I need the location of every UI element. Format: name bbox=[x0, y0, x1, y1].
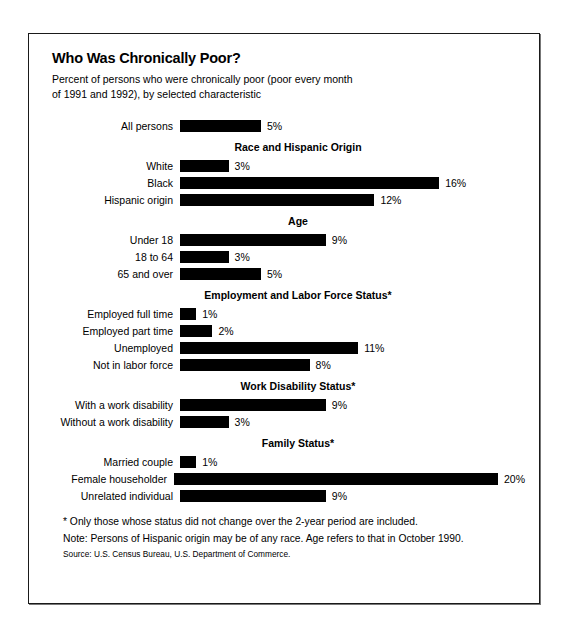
bar-track: 3% bbox=[180, 157, 525, 174]
chart-notes: * Only those whose status did not change… bbox=[63, 513, 525, 562]
bar-value-label: 3% bbox=[229, 251, 250, 263]
bar-label: 18 to 64 bbox=[43, 251, 180, 263]
bar-label: Black bbox=[43, 177, 180, 189]
bar-value-label: 3% bbox=[229, 416, 250, 428]
bar-track: 20% bbox=[174, 470, 525, 487]
bar-row: With a work disability9% bbox=[43, 396, 525, 413]
bar-row: Hispanic origin12% bbox=[43, 191, 525, 208]
bar-value-label: 9% bbox=[326, 399, 347, 411]
bar-track: 8% bbox=[180, 356, 525, 373]
bar-label: White bbox=[43, 160, 180, 172]
bar-row: White3% bbox=[43, 157, 525, 174]
bar bbox=[180, 308, 196, 320]
bar-value-label: 1% bbox=[196, 308, 217, 320]
chart-title: Who Was Chronically Poor? bbox=[52, 50, 525, 66]
bar-value-label: 20% bbox=[498, 473, 525, 485]
bar-value-label: 11% bbox=[358, 342, 384, 354]
bar bbox=[180, 194, 374, 206]
bar-label: Employed full time bbox=[43, 308, 180, 320]
bar bbox=[180, 416, 229, 428]
bar-track: 9% bbox=[180, 231, 525, 248]
bar-track: 5% bbox=[180, 265, 525, 282]
section-heading: Work Disability Status* bbox=[43, 379, 525, 393]
chart-subtitle-line-2: of 1991 and 1992), by selected character… bbox=[52, 87, 525, 102]
bar-track: 9% bbox=[180, 396, 525, 413]
bar-value-label: 2% bbox=[212, 325, 233, 337]
footnote-text: * Only those whose status did not change… bbox=[63, 513, 525, 530]
section-heading: Family Status* bbox=[43, 436, 525, 450]
bar-track: 12% bbox=[180, 191, 525, 208]
bar bbox=[180, 399, 326, 411]
chart-subtitle: Percent of persons who were chronically … bbox=[52, 72, 525, 102]
bar-row: All persons5% bbox=[43, 117, 525, 134]
bar-row: Employed part time2% bbox=[43, 322, 525, 339]
bar-label: Unrelated individual bbox=[43, 490, 180, 502]
bar bbox=[180, 160, 229, 172]
bar-track: 9% bbox=[180, 487, 525, 504]
bar-value-label: 16% bbox=[439, 177, 466, 189]
section-heading: Employment and Labor Force Status* bbox=[43, 288, 525, 302]
bar-label: Unemployed bbox=[43, 342, 180, 354]
bar-label: With a work disability bbox=[43, 399, 180, 411]
bar-row: 18 to 643% bbox=[43, 248, 525, 265]
note-text: Note: Persons of Hispanic origin may be … bbox=[63, 530, 525, 547]
bar-row: Unemployed11% bbox=[43, 339, 525, 356]
bar-value-label: 3% bbox=[229, 160, 250, 172]
bar-label: Married couple bbox=[43, 456, 180, 468]
spacer bbox=[43, 504, 525, 513]
bar-row: Unrelated individual9% bbox=[43, 487, 525, 504]
bar-track: 16% bbox=[180, 174, 525, 191]
bar-row: Without a work disability3% bbox=[43, 413, 525, 430]
bar-row: Female householder20% bbox=[43, 470, 525, 487]
bar bbox=[180, 359, 310, 371]
bar-track: 1% bbox=[180, 305, 525, 322]
bar-track: 11% bbox=[180, 339, 525, 356]
bar-row: 65 and over5% bbox=[43, 265, 525, 282]
bar-label: Under 18 bbox=[43, 234, 180, 246]
bar-label: Not in labor force bbox=[43, 359, 180, 371]
bar-label: All persons bbox=[43, 120, 180, 132]
bar-value-label: 9% bbox=[326, 234, 347, 246]
bar bbox=[180, 342, 358, 354]
bar-track: 3% bbox=[180, 413, 525, 430]
bar-row: Black16% bbox=[43, 174, 525, 191]
bar-chart: All persons5%Race and Hispanic OriginWhi… bbox=[43, 111, 525, 513]
bar bbox=[180, 177, 439, 189]
chart-frame: Who Was Chronically Poor? Percent of per… bbox=[28, 33, 540, 604]
section-heading: Race and Hispanic Origin bbox=[43, 140, 525, 154]
bar-label: Without a work disability bbox=[43, 416, 180, 428]
chart-subtitle-line-1: Percent of persons who were chronically … bbox=[52, 72, 525, 87]
bar-row: Married couple1% bbox=[43, 453, 525, 470]
bar-row: Under 189% bbox=[43, 231, 525, 248]
bar-row: Employed full time1% bbox=[43, 305, 525, 322]
bar-value-label: 5% bbox=[261, 120, 282, 132]
bar-track: 5% bbox=[180, 117, 525, 134]
bar-track: 2% bbox=[180, 322, 525, 339]
source-text: Source: U.S. Census Bureau, U.S. Departm… bbox=[63, 547, 525, 562]
bar-label: Employed part time bbox=[43, 325, 180, 337]
bar bbox=[180, 325, 212, 337]
section-heading: Age bbox=[43, 214, 525, 228]
bar-track: 3% bbox=[180, 248, 525, 265]
bar bbox=[180, 251, 229, 263]
bar bbox=[180, 490, 326, 502]
bar-value-label: 5% bbox=[261, 268, 282, 280]
bar-label: Female householder bbox=[43, 473, 174, 485]
bar-track: 1% bbox=[180, 453, 525, 470]
bar-value-label: 9% bbox=[326, 490, 347, 502]
bar-label: 65 and over bbox=[43, 268, 180, 280]
bar-value-label: 8% bbox=[310, 359, 331, 371]
bar bbox=[180, 234, 326, 246]
bar-value-label: 1% bbox=[196, 456, 217, 468]
bar-row: Not in labor force8% bbox=[43, 356, 525, 373]
bar bbox=[180, 120, 261, 132]
bar-value-label: 12% bbox=[374, 194, 401, 206]
bar bbox=[180, 268, 261, 280]
bar bbox=[174, 473, 498, 485]
chart-inner: Who Was Chronically Poor? Percent of per… bbox=[29, 34, 539, 603]
bar-label: Hispanic origin bbox=[43, 194, 180, 206]
bar bbox=[180, 456, 196, 468]
